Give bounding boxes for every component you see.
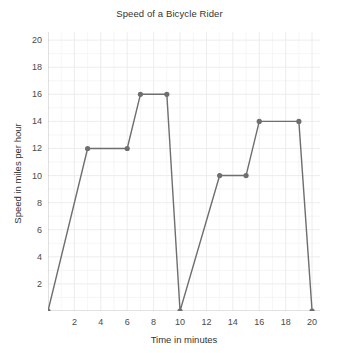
x-tick-label: 20: [300, 317, 324, 327]
data-point: [164, 92, 169, 97]
chart-title: Speed of a Bicycle Rider: [0, 8, 339, 19]
chart-container: Speed of a Bicycle Rider Speed in miles …: [0, 0, 339, 353]
plot-svg: [48, 32, 320, 311]
y-axis-label: Speed in miles per hour: [12, 94, 23, 254]
data-point: [257, 119, 262, 124]
data-point: [125, 146, 130, 151]
x-tick-label: 6: [115, 317, 139, 327]
y-tick-label: 18: [16, 62, 42, 72]
axis-lines: [48, 32, 320, 311]
y-tick-label: 20: [16, 35, 42, 45]
data-point: [309, 308, 314, 311]
data-point: [85, 146, 90, 151]
y-tick-label: 2: [16, 279, 42, 289]
x-axis-label: Time in minutes: [48, 334, 320, 345]
x-tick-label: 2: [62, 317, 86, 327]
x-tick-label: 8: [142, 317, 166, 327]
data-point: [48, 308, 51, 311]
x-tick-label: 16: [247, 317, 271, 327]
x-tick-label: 10: [168, 317, 192, 327]
data-point: [217, 173, 222, 178]
minor-gridlines: [48, 32, 320, 311]
data-point: [296, 119, 301, 124]
x-tick-label: 12: [194, 317, 218, 327]
x-tick-label: 14: [221, 317, 245, 327]
series-markers-speed: [48, 92, 315, 311]
data-point: [177, 308, 182, 311]
data-point: [243, 173, 248, 178]
x-tick-label: 4: [89, 317, 113, 327]
x-tick-label: 18: [274, 317, 298, 327]
major-gridlines: [48, 32, 320, 311]
data-point: [138, 92, 143, 97]
plot-area: [48, 32, 320, 311]
